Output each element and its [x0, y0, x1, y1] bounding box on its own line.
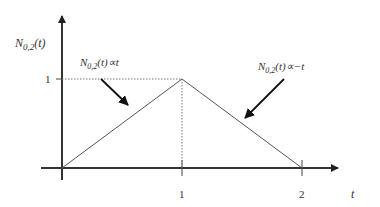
rising-segment [62, 79, 182, 168]
falling-segment [182, 79, 302, 168]
annotation-arrow-right [245, 79, 284, 118]
hat-function-diagram: N0,2(t) N0,2(t)∝t N0,2(t)∝−t 1 1 2 t [0, 0, 380, 207]
annotation-right-label: N0,2(t)∝−t [257, 60, 305, 75]
y-tick-label-1: 1 [45, 73, 51, 85]
annotation-left-label: N0,2(t)∝t [79, 56, 120, 71]
x-tick-label-2: 2 [299, 188, 305, 200]
y-axis-label: N0,2(t) [14, 36, 46, 52]
x-tick-label-1: 1 [179, 188, 185, 200]
annotation-arrow-left [101, 79, 128, 105]
diagram-svg: N0,2(t) N0,2(t)∝t N0,2(t)∝−t 1 1 2 t [0, 0, 380, 207]
x-axis-label: t [351, 187, 355, 201]
